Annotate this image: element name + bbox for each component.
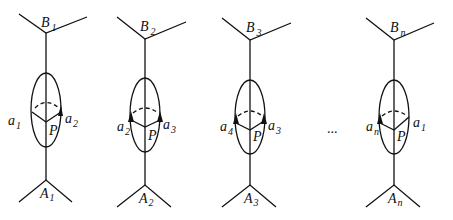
svg-text:a3: a3 (163, 117, 176, 135)
svg-text:a3: a3 (268, 118, 281, 136)
svg-text:a1: a1 (8, 113, 21, 131)
svg-text:P: P (147, 128, 157, 143)
dashed-arc (35, 103, 59, 109)
svg-text:B1: B1 (41, 15, 57, 33)
svg-text:B2: B2 (140, 19, 156, 37)
svg-text:A3: A3 (243, 191, 259, 208)
svg-text:A1: A1 (39, 186, 55, 203)
arrow-left-icon (233, 113, 239, 124)
svg-text:B3: B3 (246, 20, 262, 38)
svg-text:a1: a1 (413, 115, 426, 133)
svg-text:a2: a2 (65, 111, 78, 129)
figure-2: B2 A2 a2 a3 P (117, 17, 186, 208)
svg-text:P: P (396, 129, 406, 144)
svg-text:a2: a2 (117, 119, 130, 137)
svg-text:P: P (48, 123, 58, 138)
arrow-left-icon (377, 113, 383, 124)
figure-4: Bn An an a1 P (366, 18, 434, 208)
figure-3: B3 A3 a4 a3 P (220, 18, 291, 208)
ellipsis: ... (327, 121, 338, 136)
arrow-right-icon (261, 113, 267, 124)
svg-text:A2: A2 (138, 191, 154, 208)
svg-text:P: P (252, 129, 262, 144)
diagram: B1 A1 a1 a2 P B2 A2 a2 a3 P B3 A3 a4 a3 … (0, 0, 453, 220)
svg-text:Bn: Bn (390, 20, 406, 38)
svg-text:a4: a4 (220, 119, 233, 137)
svg-text:an: an (366, 119, 379, 137)
figure-1: B1 A1 a1 a2 P (8, 14, 87, 203)
svg-text:An: An (387, 191, 403, 208)
